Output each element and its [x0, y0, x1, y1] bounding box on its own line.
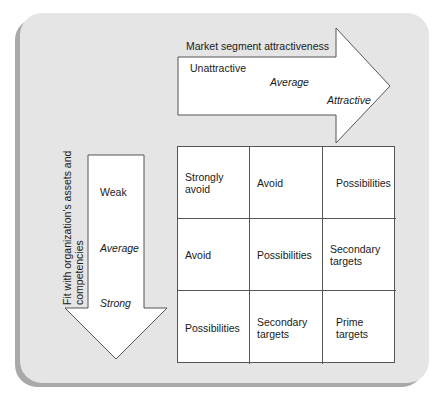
h-level-attractive: Attractive: [327, 94, 371, 106]
matrix-cell: Possibilities: [178, 291, 250, 364]
h-level-average: Average: [270, 76, 309, 88]
matrix-cell: Possibilities: [250, 219, 323, 291]
segment-matrix: Strongly avoid Avoid Possibilities Avoid…: [177, 146, 395, 363]
matrix-cell: Avoid: [250, 147, 323, 219]
matrix-cell: Secondary targets: [250, 291, 323, 364]
matrix-cell: Secondary targets: [323, 219, 396, 291]
matrix-cell: Strongly avoid: [178, 147, 250, 219]
v-level-weak: Weak: [100, 186, 127, 198]
matrix-cell: Prime targets: [323, 291, 396, 364]
matrix-cell: Possibilities: [323, 147, 396, 219]
h-level-unattractive: Unattractive: [190, 62, 246, 74]
vertical-axis-title: Fit with organization's assets and compe…: [61, 143, 85, 305]
horizontal-axis-title: Market segment attractiveness: [186, 40, 329, 52]
matrix-cell: Avoid: [178, 219, 250, 291]
v-level-average: Average: [100, 242, 139, 254]
v-level-strong: Strong: [100, 297, 131, 309]
